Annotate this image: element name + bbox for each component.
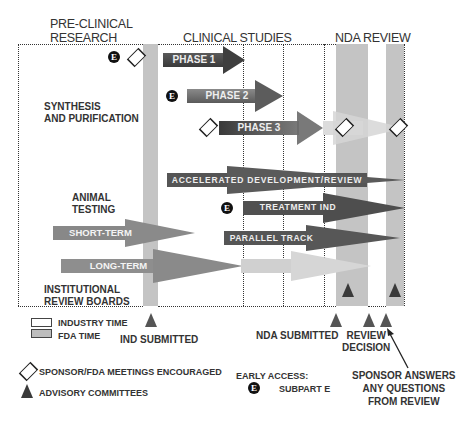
review-decision-triangle [363,313,375,327]
nda-submitted-triangle [330,313,342,327]
arrow-long-term: LONG-TERM [61,249,381,283]
label-ind-submitted: IND SUBMITTED [120,334,198,346]
arrow-phase-2: PHASE 2 [187,80,283,112]
legend-fda-time-swatch [31,329,52,338]
legend-e-badge: E [248,382,260,394]
arrow-parallel-track: PARALLEL TRACK [224,225,400,251]
early-access-e-badge: E [166,90,178,102]
header-nda-review: NDA REVIEW [335,31,411,45]
header-preclinical: PRE-CLINICAL RESEARCH [50,17,133,45]
label-review-decision: REVIEW DECISION [342,330,390,354]
advisory-committee-triangle [342,283,354,297]
label-nda-submitted: NDA SUBMITTED [256,330,338,342]
legend-advisory: ADVISORY COMMITTEES [39,387,148,399]
frame-top-left [18,44,143,45]
early-access-e-badge: E [221,202,233,214]
arrow-accelerated-development: ACCELERATED DEVELOPMENT/REVIEW [167,166,405,194]
label-synthesis: SYNTHESIS AND PURIFICATION [44,101,139,125]
arrow-short-term: SHORT-TERM [53,219,195,247]
sponsor-answers-triangle [380,313,392,327]
label-sponsor-answers: SPONSOR ANSWERS ANY QUESTIONS FROM REVIE… [352,369,456,408]
legend-early-access: EARLY ACCESS: [236,370,308,382]
label-animal-testing: ANIMAL TESTING [72,192,115,216]
legend-industry-time: INDUSTRY TIME [58,317,128,329]
ind-submitted-triangle [145,313,157,327]
legend-subpart-e: SUBPART E [279,383,330,395]
label-irb: INSTITUTIONAL REVIEW BOARDS [44,284,130,308]
arrow-treatment-ind: TREATMENT IND [243,193,405,223]
early-access-e-badge: E [108,51,120,63]
frame-top-right [158,44,336,45]
arrow-phase-1: PHASE 1 [163,46,245,74]
header-clinical-studies: CLINICAL STUDIES [183,31,292,45]
legend-meetings: SPONSOR/FDA MEETINGS ENCOURAGED [39,366,222,378]
frame-bottom-right [368,306,386,307]
frame-bottom-mid [158,306,336,307]
arrow-phase-3: PHASE 3 [219,111,405,145]
legend-meeting-diamond [19,362,38,381]
advisory-committee-triangle [389,283,401,297]
legend-industry-time-swatch [31,318,52,327]
legend-fda-time: FDA TIME [58,330,100,342]
frame-left [18,44,19,306]
legend-advisory-triangle [21,384,33,398]
pointer-arrow-icon [385,328,415,370]
meeting-diamond [199,118,218,137]
